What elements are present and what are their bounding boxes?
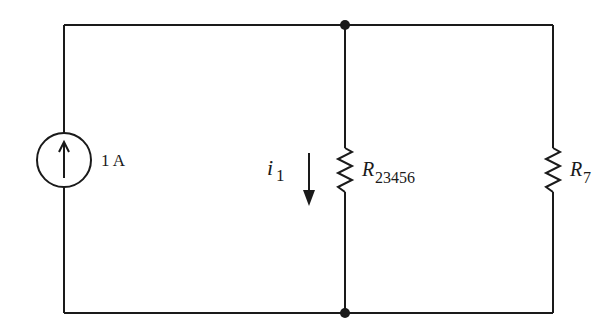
resistor-r7: R 7 [546, 148, 591, 192]
source-label: 1 A [101, 151, 126, 170]
current-symbol: i [267, 155, 273, 180]
current-subscript: 1 [276, 166, 285, 185]
resistor-symbol: R [361, 158, 374, 180]
resistor-zigzag-icon [338, 148, 352, 192]
resistor-r23456: R 23456 [338, 148, 415, 192]
node-top [340, 20, 350, 30]
current-source: 1 A [37, 133, 126, 187]
current-indicator: i 1 [267, 153, 315, 206]
node-bottom [340, 308, 350, 318]
circuit-diagram: 1 A i 1 R 23456 R 7 [0, 0, 614, 333]
resistor-zigzag-icon [546, 148, 560, 192]
resistor-subscript: 7 [583, 169, 591, 186]
resistor-subscript: 23456 [375, 169, 415, 186]
current-arrow-icon [303, 190, 315, 206]
resistor-symbol: R [569, 158, 582, 180]
